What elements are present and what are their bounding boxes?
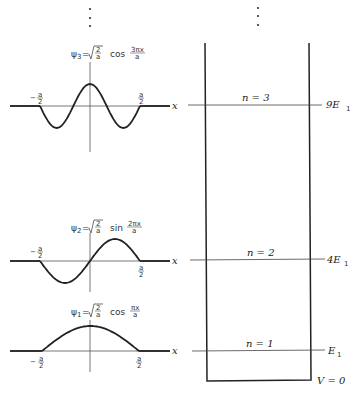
energy-level-2: n = 2 4E 1: [190, 247, 348, 268]
svg-text:1: 1: [77, 311, 81, 319]
energy-level-3: n = 3 9E 1: [188, 92, 350, 113]
svg-text:2: 2: [77, 227, 81, 235]
svg-text:x: x: [172, 345, 178, 356]
svg-text:a: a: [135, 53, 139, 61]
svg-text:=: =: [82, 49, 90, 59]
psi1-right-tick: a 2: [136, 355, 142, 370]
svg-text:cos: cos: [110, 307, 125, 317]
svg-text:2: 2: [137, 362, 141, 370]
svg-text:sin: sin: [110, 223, 123, 233]
psi1-left-tick: − a 2: [30, 355, 44, 370]
svg-text:=: =: [82, 223, 90, 233]
psi2-formula: ψ 2 = 2 a sin 2πx a: [71, 220, 142, 235]
svg-text:E: E: [327, 345, 336, 356]
psi3-plot: ψ 3 = 2 a cos 3πx a x − a 2 a 2: [10, 46, 178, 152]
psi3-right-tick: a 2: [138, 91, 144, 106]
svg-text:a: a: [96, 227, 100, 235]
svg-text:a: a: [96, 53, 100, 61]
psi2-right-tick: a 2: [138, 264, 144, 279]
svg-text:4E: 4E: [326, 254, 341, 265]
psi1-curve: [42, 326, 139, 351]
v-zero-label: V = 0: [317, 375, 346, 386]
continuation-dots-left: [89, 8, 91, 27]
psi3-formula: ψ 3 = 2 a cos 3πx a: [71, 46, 145, 61]
svg-text:9E: 9E: [326, 99, 340, 110]
svg-text:n = 2: n = 2: [247, 247, 275, 258]
psi3-left-tick: − a 2: [30, 91, 43, 106]
svg-text:1: 1: [344, 260, 348, 268]
svg-text:a: a: [132, 227, 136, 235]
svg-text:−: −: [30, 94, 36, 102]
psi2-left-tick: − a 2: [30, 245, 43, 260]
svg-text:1: 1: [346, 105, 350, 113]
potential-well: n = 3 9E 1 n = 2 4E 1 n = 1 E 1 V = 0: [188, 43, 350, 386]
svg-text:2: 2: [139, 98, 143, 106]
psi1-formula: ψ 1 = 2 a cos πx a: [71, 304, 140, 319]
svg-text:a: a: [133, 311, 137, 319]
svg-text:3: 3: [77, 53, 81, 61]
psi1-plot: ψ 1 = 2 a cos πx a x − a 2 a 2: [10, 304, 178, 372]
svg-text:=: =: [82, 307, 90, 317]
psi2-plot: ψ 2 = 2 a sin 2πx a x − a 2 a 2: [10, 220, 178, 292]
svg-text:cos: cos: [110, 49, 125, 59]
svg-text:a: a: [96, 311, 100, 319]
svg-text:−: −: [30, 248, 36, 256]
svg-text:x: x: [172, 100, 178, 111]
svg-text:n = 1: n = 1: [246, 338, 274, 349]
svg-text:2: 2: [139, 271, 143, 279]
square-well-diagram: ψ 3 = 2 a cos 3πx a x − a 2 a 2: [0, 0, 352, 397]
svg-text:2: 2: [38, 98, 42, 106]
svg-text:n = 3: n = 3: [242, 92, 270, 103]
svg-text:2: 2: [39, 362, 43, 370]
energy-level-1: n = 1 E 1: [192, 338, 341, 359]
svg-text:1: 1: [337, 351, 341, 359]
continuation-dots-right: [257, 7, 259, 26]
svg-text:2: 2: [38, 252, 42, 260]
svg-text:−: −: [30, 358, 36, 366]
svg-text:x: x: [172, 255, 178, 266]
